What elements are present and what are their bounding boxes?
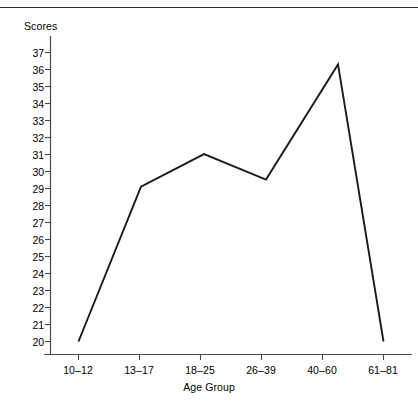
- chart-canvas: [0, 0, 418, 414]
- line-chart: Scores 37 36 35 34 33 32 31 30 29 28 27 …: [0, 0, 418, 414]
- x-tick-label: 10–12: [63, 364, 93, 376]
- x-tick-label: 61–81: [368, 364, 398, 376]
- x-tick-label: 13–17: [124, 364, 154, 376]
- y-axis-ticks: [45, 53, 51, 342]
- x-axis-ticks: [79, 355, 384, 361]
- x-tick-label: 40–60: [307, 364, 337, 376]
- series-guide: [79, 185, 205, 342]
- x-tick-label: 18–25: [185, 364, 215, 376]
- x-tick-label: 26–39: [246, 364, 276, 376]
- data-line-scores: [79, 64, 384, 341]
- x-axis-title: Age Group: [0, 381, 418, 393]
